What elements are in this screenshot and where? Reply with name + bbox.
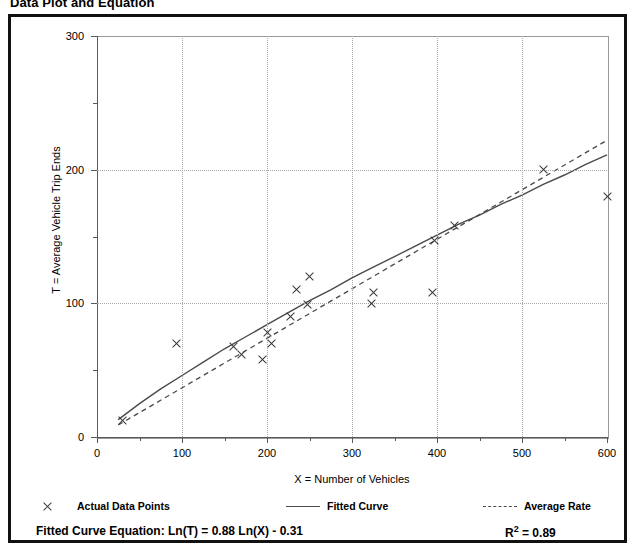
r-squared-symbol: R bbox=[505, 526, 514, 540]
x-tick bbox=[267, 437, 268, 443]
data-point bbox=[117, 415, 128, 426]
y-tick bbox=[91, 170, 97, 171]
y-axis-title: T = Average Vehicle Trip Ends bbox=[50, 90, 62, 350]
data-point bbox=[236, 349, 247, 360]
x-tick-minor bbox=[480, 437, 481, 441]
legend-label: Actual Data Points bbox=[77, 500, 170, 512]
legend-item-actual-data-points: Actual Data Points bbox=[36, 495, 170, 517]
x-tick bbox=[97, 437, 98, 443]
data-point bbox=[291, 284, 302, 295]
data-point bbox=[429, 235, 440, 246]
x-tick-label: 500 bbox=[513, 447, 531, 459]
y-tick bbox=[91, 303, 97, 304]
x-tick-label: 400 bbox=[428, 447, 446, 459]
y-tick-label: 300 bbox=[0, 30, 84, 42]
x-axis-title: X = Number of Vehicles bbox=[97, 473, 607, 485]
chart-legend: Actual Data Points Fitted Curve Average … bbox=[8, 495, 627, 517]
gridline-vertical bbox=[182, 36, 183, 437]
data-point bbox=[538, 164, 549, 175]
y-tick bbox=[91, 437, 97, 438]
data-point bbox=[449, 220, 460, 231]
fitted-curve-line bbox=[118, 155, 607, 420]
data-point bbox=[302, 299, 313, 310]
x-tick-minor bbox=[395, 437, 396, 441]
y-tick-label: 200 bbox=[0, 164, 84, 176]
x-tick-label: 600 bbox=[598, 447, 616, 459]
y-tick bbox=[91, 36, 97, 37]
data-point bbox=[368, 287, 379, 298]
x-tick bbox=[182, 437, 183, 443]
r-squared-exponent: 2 bbox=[514, 524, 519, 534]
x-tick-label: 200 bbox=[258, 447, 276, 459]
x-tick bbox=[522, 437, 523, 443]
average-rate-line bbox=[118, 140, 607, 425]
y-tick-label: 100 bbox=[0, 297, 84, 309]
legend-item-fitted-curve: Fitted Curve bbox=[286, 495, 388, 517]
data-point bbox=[304, 271, 315, 282]
y-tick-minor bbox=[93, 103, 97, 104]
gridline-vertical bbox=[522, 36, 523, 437]
x-tick-minor bbox=[310, 437, 311, 441]
x-tick-label: 0 bbox=[94, 447, 100, 459]
x-tick bbox=[437, 437, 438, 443]
data-point bbox=[266, 338, 277, 349]
gridline-vertical bbox=[352, 36, 353, 437]
x-tick bbox=[607, 437, 608, 443]
x-tick-label: 100 bbox=[173, 447, 191, 459]
fitted-curve-equation: Fitted Curve Equation: Ln(T) = 0.88 Ln(X… bbox=[36, 524, 303, 538]
gridline-horizontal bbox=[97, 303, 607, 304]
data-point bbox=[427, 287, 438, 298]
gridline-vertical bbox=[267, 36, 268, 437]
y-tick-label: 0 bbox=[0, 431, 84, 443]
x-tick-minor bbox=[225, 437, 226, 441]
gridline-horizontal bbox=[97, 170, 607, 171]
r-squared-value: R2 = 0.89 bbox=[505, 524, 556, 540]
y-tick-minor bbox=[93, 370, 97, 371]
data-point bbox=[602, 191, 613, 202]
legend-item-average-rate: Average Rate bbox=[483, 495, 591, 517]
equation-row: Fitted Curve Equation: Ln(T) = 0.88 Ln(X… bbox=[8, 524, 627, 548]
legend-label: Fitted Curve bbox=[327, 500, 388, 512]
legend-label: Average Rate bbox=[524, 500, 591, 512]
x-tick bbox=[352, 437, 353, 443]
solid-line-icon bbox=[286, 500, 320, 512]
data-point bbox=[366, 298, 377, 309]
dashed-line-icon bbox=[483, 500, 517, 512]
chart-plot-area: 01002003004005006000100200300 X = Number… bbox=[0, 0, 637, 552]
data-point bbox=[257, 354, 268, 365]
y-tick-minor bbox=[93, 237, 97, 238]
x-marker-icon bbox=[36, 500, 70, 512]
x-tick-minor bbox=[565, 437, 566, 441]
data-point bbox=[171, 338, 182, 349]
x-tick-label: 300 bbox=[343, 447, 361, 459]
r-squared-number: = 0.89 bbox=[522, 526, 556, 540]
data-point bbox=[285, 311, 296, 322]
x-tick-minor bbox=[140, 437, 141, 441]
data-point bbox=[262, 327, 273, 338]
